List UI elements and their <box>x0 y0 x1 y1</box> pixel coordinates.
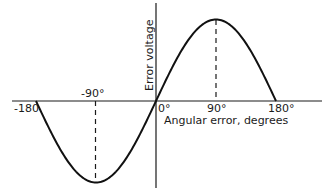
tick-label-minus-90: -90° <box>81 87 104 100</box>
y-axis-title: Error voltage <box>143 19 156 91</box>
x-axis-title: Angular error, degrees <box>164 114 288 127</box>
chart: -180 -90° 0° 90° 180° Angular error, deg… <box>0 0 332 192</box>
tick-label-minus-180: -180 <box>14 102 39 115</box>
